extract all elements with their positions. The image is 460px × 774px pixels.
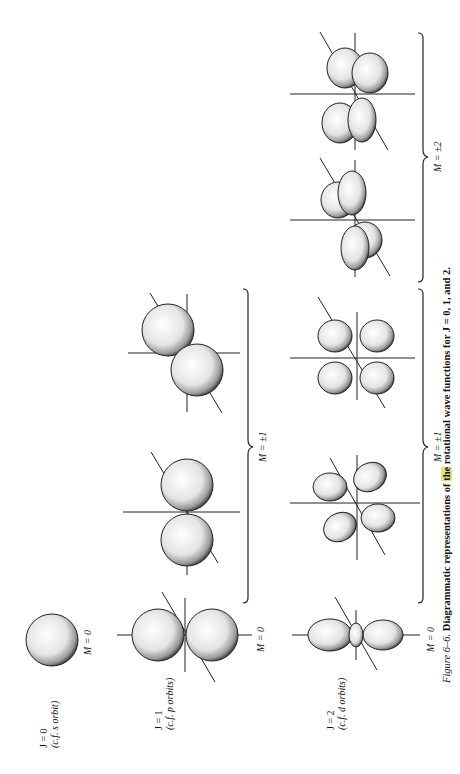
orbital-figure <box>0 0 460 774</box>
j1-m1-label: M = ±1 <box>257 431 268 462</box>
j-label: J = 1 <box>153 678 164 730</box>
j1-m0-label: M = 0 <box>255 627 266 652</box>
caption-prefix: Figure 6–6. <box>441 634 452 683</box>
sub-label: (c.f. p orbits) <box>164 678 175 730</box>
caption-highlight: the <box>441 467 452 481</box>
j-label: J = 0 <box>38 701 49 748</box>
j1-m0-lobe-plus <box>132 609 184 661</box>
j0-m0-label: M = 0 <box>82 630 93 655</box>
sub-label: (c.f. s orbit) <box>49 701 60 748</box>
sub-label: (c.f. d orbits) <box>336 678 347 730</box>
j1-m0-lobe-minus <box>186 609 238 661</box>
caption-text: Diagrammatic representations of <box>441 481 452 631</box>
j1-label: J = 1 (c.f. p orbits) <box>153 678 175 730</box>
caption-text: rotational wave functions for J = 0, 1, … <box>441 267 452 467</box>
j-label: J = 2 <box>325 678 336 730</box>
j0-sphere <box>26 614 78 666</box>
j2-m2-label: M = ±2 <box>432 141 443 172</box>
j0-label: J = 0 (c.f. s orbit) <box>38 701 60 748</box>
j2-m0-label: M = 0 <box>425 627 436 652</box>
figure-caption: Figure 6–6. Diagrammatic representations… <box>441 267 452 683</box>
j2-label: J = 2 (c.f. d orbits) <box>325 678 347 730</box>
